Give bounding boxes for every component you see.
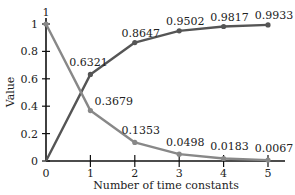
- y-tick-label: 0.4: [21, 100, 39, 113]
- data-point: [177, 152, 182, 157]
- plot-area: 0.63210.86470.95020.98170.993310.36790.1…: [43, 6, 294, 163]
- data-label: 0.9817: [210, 11, 249, 24]
- data-label: 0.1353: [122, 124, 161, 137]
- data-label: 0.0067: [255, 142, 294, 155]
- chart: 00.20.40.60.81 012345 Value Number of ti…: [0, 0, 295, 195]
- data-point: [132, 140, 137, 145]
- data-point: [88, 72, 93, 77]
- x-axis-label: Number of time constants: [93, 179, 239, 192]
- data-point: [88, 108, 93, 113]
- x-tick-label: 0: [43, 167, 50, 180]
- y-axis-label: Value: [4, 77, 17, 109]
- y-axis: 00.20.40.60.81: [21, 18, 51, 168]
- data-label: 0.6321: [69, 56, 108, 69]
- data-label: 0.9933: [255, 9, 294, 22]
- y-tick-label: 0.8: [21, 45, 39, 58]
- data-point: [265, 22, 270, 27]
- data-label: 0.0183: [210, 140, 249, 153]
- y-tick-label: 0.6: [21, 73, 39, 86]
- data-point: [132, 40, 137, 45]
- data-label: 0.3679: [94, 95, 132, 108]
- y-tick-label: 0: [31, 155, 38, 168]
- data-point: [177, 28, 182, 33]
- y-tick-label: 1: [31, 18, 38, 31]
- data-label: 0.9502: [166, 15, 205, 28]
- decaying-series: 10.36790.13530.04980.01830.0067: [43, 6, 294, 163]
- data-point: [221, 156, 226, 161]
- data-point: [43, 21, 48, 26]
- x-tick-label: 5: [265, 167, 272, 180]
- data-label: 0.0498: [166, 136, 205, 149]
- data-point: [221, 24, 226, 29]
- data-point: [265, 157, 270, 162]
- data-label: 0.8647: [122, 27, 161, 40]
- y-tick-label: 0.2: [21, 128, 39, 141]
- data-label: 1: [43, 6, 50, 19]
